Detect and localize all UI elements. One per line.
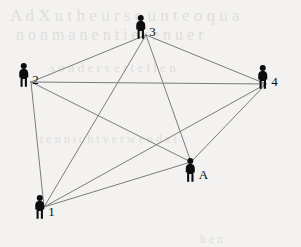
graph-node-1[interactable]: 1 bbox=[33, 195, 55, 220]
graph-edge-4-A bbox=[191, 84, 266, 162]
graph-edge-1-A bbox=[44, 162, 191, 207]
graph-edge-1-4 bbox=[44, 84, 266, 207]
graph-node-4[interactable]: 4 bbox=[256, 65, 278, 90]
person-icon bbox=[256, 65, 269, 90]
graph-node-A[interactable]: A bbox=[184, 158, 208, 183]
graph-node-label-A: A bbox=[199, 168, 208, 183]
edges-group bbox=[31, 35, 266, 207]
graph-edge-2-3 bbox=[31, 35, 146, 82]
person-icon bbox=[184, 158, 197, 183]
graph-edge-1-3 bbox=[44, 35, 146, 207]
graph-edge-3-4 bbox=[146, 35, 266, 84]
network-diagram: A d X u t h e u r s o u n t e o q u an o… bbox=[0, 0, 301, 247]
graph-node-2[interactable]: 2 bbox=[17, 63, 39, 88]
graph-node-label-2: 2 bbox=[32, 73, 39, 88]
graph-edge-1-2 bbox=[31, 82, 44, 207]
graph-edge-2-4 bbox=[31, 82, 266, 84]
person-icon bbox=[17, 63, 30, 88]
graph-node-label-3: 3 bbox=[149, 25, 156, 40]
person-icon bbox=[33, 195, 46, 220]
graph-node-label-4: 4 bbox=[271, 75, 278, 90]
graph-node-label-1: 1 bbox=[48, 205, 55, 220]
graph-node-3[interactable]: 3 bbox=[134, 15, 156, 40]
person-icon bbox=[134, 15, 147, 40]
